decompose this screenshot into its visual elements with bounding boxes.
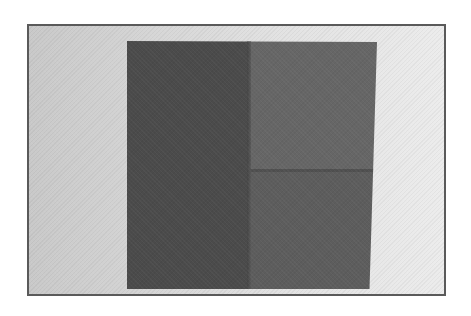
folded-paper [127,41,377,289]
paper-left-half [127,41,249,289]
paper-top-right-quarter [249,41,377,171]
photo-frame [27,24,446,296]
vertical-fold-line [247,41,251,289]
paper-bottom-right-quarter [249,171,377,289]
horizontal-fold-line [249,169,377,172]
